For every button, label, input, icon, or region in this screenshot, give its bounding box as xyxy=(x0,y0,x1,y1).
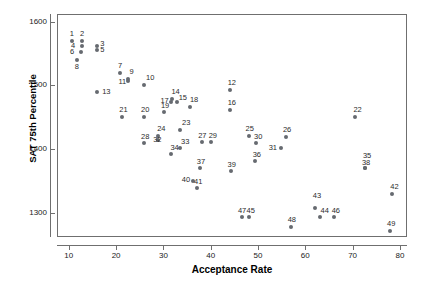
x-tick-label: 40 xyxy=(200,252,222,260)
x-tick-mark xyxy=(69,246,70,250)
x-tick-label: 60 xyxy=(294,252,316,260)
y-tick-mark xyxy=(51,85,55,86)
x-tick-mark xyxy=(116,246,117,250)
x-tick-label: 70 xyxy=(342,252,364,260)
y-axis-title: SAT 75th Percentile xyxy=(27,19,38,219)
scatter-chart: 13001400150016001020304050607080 1234567… xyxy=(0,0,421,290)
x-tick-mark xyxy=(400,246,401,250)
x-tick-mark xyxy=(353,246,354,250)
y-tick-mark xyxy=(51,149,55,150)
y-tick-mark xyxy=(51,213,55,214)
x-tick-mark xyxy=(258,246,259,250)
x-tick-label: 80 xyxy=(389,252,411,260)
x-tick-mark xyxy=(163,246,164,250)
x-tick-label: 20 xyxy=(105,252,127,260)
x-tick-label: 30 xyxy=(152,252,174,260)
x-tick-label: 10 xyxy=(58,252,80,260)
x-axis-title: Acceptance Rate xyxy=(57,264,407,275)
x-tick-mark xyxy=(211,246,212,250)
y-axis-line xyxy=(50,14,51,237)
y-tick-mark xyxy=(51,22,55,23)
x-axis-line xyxy=(57,245,407,246)
x-tick-mark xyxy=(305,246,306,250)
x-tick-label: 50 xyxy=(247,252,269,260)
plot-frame xyxy=(57,14,407,237)
